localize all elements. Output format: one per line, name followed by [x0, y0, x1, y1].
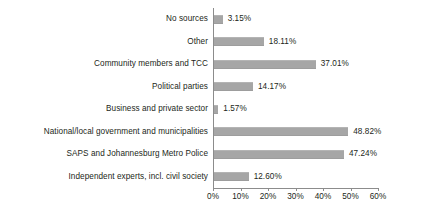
bar-group: 1.57% [214, 105, 247, 114]
x-axis-tick-label: 60% [370, 193, 386, 201]
category-label: Other [0, 38, 208, 46]
x-axis-tick-mark [323, 188, 324, 191]
bar-value-label: 18.11% [269, 38, 296, 46]
bar[interactable] [214, 60, 316, 69]
bar-group: 47.24% [214, 150, 377, 159]
x-axis-tick-label: 40% [315, 193, 331, 201]
bar-group: 12.60% [214, 172, 282, 181]
category-label: Business and private sector [0, 105, 208, 113]
bar-value-label: 14.17% [258, 83, 286, 91]
x-axis-tick-mark [213, 188, 214, 191]
category-label: Community members and TCC [0, 60, 208, 68]
bar-value-label: 37.01% [321, 60, 349, 68]
x-axis-ticks: 0%10%20%30%40%50%60% [213, 188, 379, 210]
x-axis-tick-mark [378, 188, 379, 191]
x-axis-tick-mark [351, 188, 352, 191]
category-label: Independent experts, incl. civil society [0, 173, 208, 181]
bar-group: 48.82% [214, 127, 381, 136]
bar-row: Business and private sector1.57% [0, 98, 435, 121]
category-label: National/local government and municipali… [0, 128, 208, 136]
x-axis-tick-mark [241, 188, 242, 191]
x-axis-tick-label: 50% [342, 193, 358, 201]
category-label: Political parties [0, 83, 208, 91]
bar-group: 3.15% [214, 15, 251, 24]
x-axis-tick-label: 0% [207, 193, 219, 201]
bar-group: 14.17% [214, 82, 286, 91]
bar[interactable] [214, 172, 249, 181]
bar-value-label: 12.60% [254, 173, 282, 181]
bar-row: Independent experts, incl. civil society… [0, 166, 435, 189]
bar[interactable] [214, 37, 264, 46]
bar-value-label: 1.57% [223, 105, 246, 113]
bar-group: 37.01% [214, 60, 349, 69]
bar-row: No sources3.15% [0, 8, 435, 31]
bar-value-label: 48.82% [353, 128, 381, 136]
bar-rows: No sources3.15%Other18.11%Community memb… [0, 8, 435, 188]
bar-chart: No sources3.15%Other18.11%Community memb… [0, 0, 435, 212]
x-axis-tick-mark [268, 188, 269, 191]
bar[interactable] [214, 105, 218, 114]
bar-row: National/local government and municipali… [0, 121, 435, 144]
x-axis-tick-label: 30% [287, 193, 303, 201]
bar[interactable] [214, 82, 253, 91]
bar-row: Other18.11% [0, 31, 435, 54]
bar[interactable] [214, 15, 223, 24]
bar[interactable] [214, 150, 344, 159]
x-axis-tick-mark [296, 188, 297, 191]
category-label: SAPS and Johannesburg Metro Police [0, 150, 208, 158]
bar-row: Political parties14.17% [0, 76, 435, 99]
bar-group: 18.11% [214, 37, 296, 46]
bar[interactable] [214, 127, 348, 136]
x-axis-tick-label: 20% [260, 193, 276, 201]
bar-row: SAPS and Johannesburg Metro Police47.24% [0, 143, 435, 166]
bar-row: Community members and TCC37.01% [0, 53, 435, 76]
x-axis-tick-label: 10% [232, 193, 248, 201]
bar-value-label: 47.24% [349, 150, 377, 158]
bar-value-label: 3.15% [228, 15, 251, 23]
category-label: No sources [0, 15, 208, 23]
